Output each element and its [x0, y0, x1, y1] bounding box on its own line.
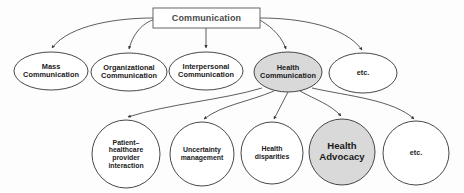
edge-health-disparities	[274, 92, 288, 119]
node-etc-level2-shape[interactable]	[383, 121, 449, 185]
node-patient-healthcare-provider-interaction-shape[interactable]	[92, 120, 160, 188]
edge-health-advocacy	[300, 91, 341, 116]
node-interpersonal-communication-shape[interactable]	[169, 52, 243, 90]
node-health-communication-shape[interactable]	[254, 52, 322, 92]
edge-health-patient	[128, 88, 262, 117]
node-health-disparities-shape[interactable]	[241, 122, 303, 184]
node-uncertainty-management-shape[interactable]	[170, 122, 234, 186]
node-mass-communication-shape[interactable]	[14, 52, 88, 90]
diagram-graphics	[0, 0, 464, 193]
diagram-canvas: Communication Mass Communication Organiz…	[0, 0, 464, 193]
node-health-advocacy-shape[interactable]	[309, 119, 375, 185]
node-organizational-communication-shape[interactable]	[91, 53, 167, 91]
edge-root-organizational	[129, 20, 153, 49]
node-etc-level1-shape[interactable]	[329, 53, 397, 93]
edge-root-health	[260, 20, 286, 49]
edge-health-uncertainty	[204, 91, 274, 119]
edge-root-etc	[260, 18, 362, 50]
node-communication-shape[interactable]	[153, 8, 260, 28]
edge-root-mass	[52, 18, 153, 48]
